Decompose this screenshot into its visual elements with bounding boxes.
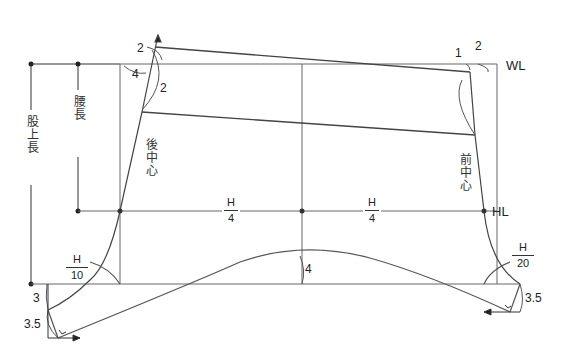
back-extension-drop-label: 3.5 [24,318,41,330]
waist-lines [142,47,475,135]
inseam-curves [48,250,520,338]
front-crotch-fraction: H 20 [512,242,534,269]
front-extension-drop-label: 3.5 [525,292,542,304]
crotch-depth-label: 股上長 [25,112,37,157]
hip-line-label: HL [492,205,509,218]
back-crotch-fraction: H 10 [66,254,88,281]
frame [31,64,520,284]
back-arc-label: 2 [160,82,167,94]
back-crotch-drop-label: 3 [33,292,40,304]
front-hip-fraction: H 4 [363,197,381,224]
back-top-rise-label: 2 [137,42,144,54]
waist-line-label: WL [506,59,526,72]
center-curve-depth-label: 4 [305,263,312,275]
front-waist-in-label: 1 [455,47,462,59]
back-hip-fraction: H 4 [222,197,240,224]
back-center-label: 後中心 [144,135,156,180]
pattern-drawing [0,0,565,355]
measurement-arcs [46,47,522,338]
front-rise-label: 2 [475,40,482,52]
hip-depth-label: 腰長 [72,92,84,124]
front-center-label: 前中心 [458,150,470,195]
back-waist-in-label: 4 [132,68,139,80]
